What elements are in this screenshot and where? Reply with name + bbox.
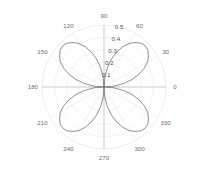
- angle-tick-180: 180: [28, 83, 39, 90]
- angle-tick-90: 90: [101, 12, 108, 19]
- spoke-300: [104, 87, 135, 141]
- angle-tick-60: 60: [136, 22, 143, 29]
- spoke-210: [50, 87, 104, 118]
- angle-tick-300: 300: [134, 145, 145, 152]
- angle-tick-150: 150: [37, 48, 48, 55]
- angle-tick-0: 0: [173, 83, 177, 90]
- radial-tick-0.5: 0.5: [115, 23, 124, 30]
- spoke-150: [50, 56, 104, 87]
- angle-tick-270: 270: [99, 154, 110, 161]
- polar-plot: 0306090120150180210240270300330 0.10.20.…: [0, 0, 199, 171]
- radial-tick-0.1: 0.1: [102, 71, 111, 78]
- angle-tick-30: 30: [162, 48, 169, 55]
- spoke-120: [73, 33, 104, 87]
- angle-tick-120: 120: [63, 22, 74, 29]
- spoke-240: [73, 87, 104, 141]
- angle-tick-210: 210: [37, 119, 48, 126]
- radial-tick-0.2: 0.2: [105, 59, 114, 66]
- radial-tick-0.3: 0.3: [108, 47, 117, 54]
- polar-chart-screenshot: 0306090120150180210240270300330 0.10.20.…: [0, 0, 199, 171]
- radial-tick-labels: 0.10.20.30.40.5: [102, 23, 124, 78]
- angle-tick-240: 240: [63, 145, 74, 152]
- spoke-330: [104, 87, 158, 118]
- angle-tick-330: 330: [160, 119, 171, 126]
- radial-tick-0.4: 0.4: [112, 35, 121, 42]
